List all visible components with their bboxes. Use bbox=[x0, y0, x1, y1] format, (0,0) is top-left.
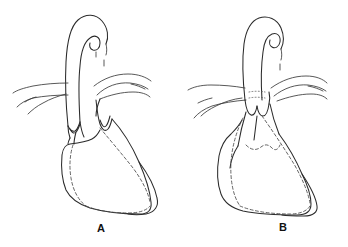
plate-canvas: A bbox=[0, 0, 348, 247]
figure-a-label: A bbox=[97, 222, 105, 234]
figure-b-label: B bbox=[279, 221, 287, 233]
plate-background bbox=[0, 0, 348, 247]
figure-plate: A bbox=[0, 0, 348, 247]
